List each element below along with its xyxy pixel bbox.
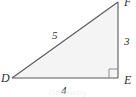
geometry-figure: D E F 5 3 4 Geometry (0, 0, 136, 97)
side-length-label-hypotenuse: 5 (52, 30, 58, 41)
vertex-label-e: E (124, 74, 131, 86)
vertex-label-f: F (124, 0, 131, 8)
right-triangle-graphic (0, 0, 136, 97)
side-length-label-vertical: 3 (124, 36, 130, 47)
watermark-text: Geometry (0, 88, 136, 97)
vertex-label-d: D (1, 72, 10, 84)
